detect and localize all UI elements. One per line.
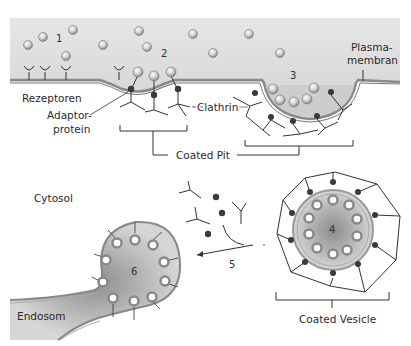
plasma-membrane-label-2: membran — [347, 54, 398, 66]
coated-pit-bracket — [120, 125, 353, 155]
coated-pit-deep — [233, 83, 354, 136]
coated-vesicle-label: Coated Vesicle — [299, 313, 376, 325]
released-coat-components — [179, 181, 246, 245]
coated-vesicle — [277, 172, 400, 292]
cytosol-label: Cytosol — [34, 192, 73, 204]
receptors-label: Rezeptoren — [22, 92, 82, 104]
clathrin-label: Clathrin — [197, 101, 238, 113]
plasma-membrane-label-1: Plasma- — [351, 41, 393, 53]
step-4-label: 4 — [329, 224, 335, 235]
step-5-label: 5 — [229, 259, 235, 270]
step-2-label: 2 — [161, 48, 167, 59]
endocytosis-diagram: 1 2 3 — [0, 0, 411, 346]
coated-vesicle-bracket — [276, 292, 389, 308]
adaptor-protein-label-1: Adaptor- — [47, 109, 92, 121]
step-6-label: 6 — [131, 266, 137, 277]
adaptor-protein-label-2: protein — [53, 123, 90, 135]
step-3-label: 3 — [290, 70, 296, 81]
step-1-label: 1 — [56, 33, 62, 44]
coated-pit-label: Coated Pit — [176, 149, 230, 161]
endosome-label: Endosom — [17, 310, 66, 322]
endosome — [10, 222, 180, 340]
